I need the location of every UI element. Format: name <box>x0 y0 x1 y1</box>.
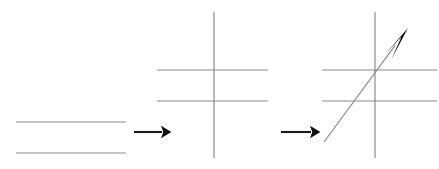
panel-oblique-transversal <box>322 12 437 158</box>
panel-transversal-cross <box>157 12 268 158</box>
geometry-figure <box>0 0 439 169</box>
panel-parallel-lines <box>16 122 126 153</box>
panel3-oblique-arrow-shaft <box>324 45 395 142</box>
figure-canvas <box>0 0 439 169</box>
